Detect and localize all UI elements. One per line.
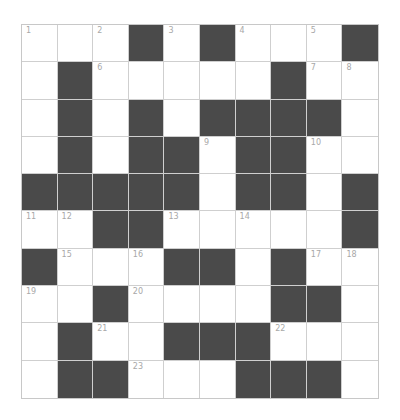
answer-cell[interactable]: 9 [200, 137, 236, 174]
answer-cell[interactable]: 5 [307, 25, 343, 62]
answer-cell[interactable]: 21 [93, 323, 129, 360]
answer-cell[interactable] [342, 286, 378, 323]
answer-cell[interactable] [22, 62, 58, 99]
answer-cell[interactable]: 20 [129, 286, 165, 323]
clue-number: 12 [62, 213, 72, 221]
answer-cell[interactable] [307, 211, 343, 248]
answer-cell[interactable] [164, 100, 200, 137]
answer-cell[interactable] [164, 361, 200, 398]
answer-cell[interactable] [236, 62, 272, 99]
block-cell [236, 100, 272, 137]
answer-cell[interactable] [236, 286, 272, 323]
answer-cell[interactable] [271, 25, 307, 62]
answer-cell[interactable]: 12 [58, 211, 94, 248]
answer-cell[interactable] [200, 361, 236, 398]
answer-cell[interactable] [200, 211, 236, 248]
answer-cell[interactable]: 22 [271, 323, 307, 360]
clue-number: 18 [346, 251, 356, 259]
answer-cell[interactable] [342, 100, 378, 137]
clue-number: 13 [168, 213, 178, 221]
clue-number: 2 [97, 27, 102, 35]
answer-cell[interactable] [236, 249, 272, 286]
block-cell [58, 361, 94, 398]
answer-cell[interactable]: 7 [307, 62, 343, 99]
answer-cell[interactable]: 6 [93, 62, 129, 99]
block-cell [58, 174, 94, 211]
block-cell [307, 286, 343, 323]
answer-cell[interactable] [93, 137, 129, 174]
block-cell [22, 174, 58, 211]
crossword-grid: 1234567891011121314151617181920212223 [21, 24, 379, 399]
block-cell [129, 174, 165, 211]
answer-cell[interactable]: 3 [164, 25, 200, 62]
clue-number: 16 [133, 251, 143, 259]
answer-cell[interactable] [200, 174, 236, 211]
block-cell [307, 361, 343, 398]
answer-cell[interactable] [307, 174, 343, 211]
answer-cell[interactable] [164, 62, 200, 99]
answer-cell[interactable] [58, 286, 94, 323]
block-cell [200, 25, 236, 62]
answer-cell[interactable]: 23 [129, 361, 165, 398]
block-cell [342, 211, 378, 248]
answer-cell[interactable]: 19 [22, 286, 58, 323]
answer-cell[interactable] [342, 137, 378, 174]
answer-cell[interactable]: 14 [236, 211, 272, 248]
clue-number: 5 [311, 27, 316, 35]
block-cell [58, 323, 94, 360]
block-cell [164, 174, 200, 211]
block-cell [200, 100, 236, 137]
block-cell [164, 137, 200, 174]
block-cell [236, 137, 272, 174]
answer-cell[interactable]: 13 [164, 211, 200, 248]
answer-cell[interactable] [22, 137, 58, 174]
block-cell [58, 62, 94, 99]
answer-cell[interactable] [93, 100, 129, 137]
answer-cell[interactable]: 2 [93, 25, 129, 62]
answer-cell[interactable] [342, 361, 378, 398]
answer-cell[interactable]: 16 [129, 249, 165, 286]
clue-number: 4 [240, 27, 245, 35]
answer-cell[interactable] [93, 249, 129, 286]
answer-cell[interactable] [200, 286, 236, 323]
clue-number: 6 [97, 64, 102, 72]
clue-number: 3 [168, 27, 173, 35]
answer-cell[interactable] [22, 361, 58, 398]
block-cell [236, 361, 272, 398]
clue-number: 21 [97, 325, 107, 333]
block-cell [93, 361, 129, 398]
answer-cell[interactable]: 11 [22, 211, 58, 248]
block-cell [164, 323, 200, 360]
block-cell [271, 174, 307, 211]
answer-cell[interactable]: 18 [342, 249, 378, 286]
answer-cell[interactable]: 10 [307, 137, 343, 174]
clue-number: 15 [62, 251, 72, 259]
answer-cell[interactable]: 1 [22, 25, 58, 62]
block-cell [164, 249, 200, 286]
answer-cell[interactable] [342, 323, 378, 360]
clue-number: 7 [311, 64, 316, 72]
clue-number: 20 [133, 288, 143, 296]
clue-number: 14 [240, 213, 250, 221]
answer-cell[interactable]: 17 [307, 249, 343, 286]
block-cell [271, 62, 307, 99]
answer-cell[interactable] [129, 62, 165, 99]
answer-cell[interactable] [271, 211, 307, 248]
answer-cell[interactable] [22, 323, 58, 360]
answer-cell[interactable]: 8 [342, 62, 378, 99]
block-cell [271, 137, 307, 174]
answer-cell[interactable] [22, 100, 58, 137]
answer-cell[interactable]: 15 [58, 249, 94, 286]
answer-cell[interactable] [58, 25, 94, 62]
answer-cell[interactable] [200, 62, 236, 99]
block-cell [236, 323, 272, 360]
block-cell [129, 137, 165, 174]
answer-cell[interactable] [164, 286, 200, 323]
clue-number: 8 [346, 64, 351, 72]
answer-cell[interactable]: 4 [236, 25, 272, 62]
block-cell [58, 100, 94, 137]
answer-cell[interactable] [129, 323, 165, 360]
block-cell [307, 100, 343, 137]
block-cell [93, 174, 129, 211]
answer-cell[interactable] [307, 323, 343, 360]
